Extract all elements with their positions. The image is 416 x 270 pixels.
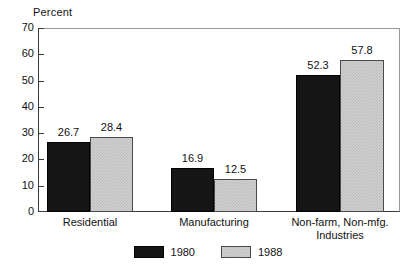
y-axis-tick-label: 70: [4, 22, 34, 33]
y-axis-tick: [38, 81, 44, 82]
y-axis-tick-label: 20: [4, 153, 34, 164]
legend-label-1988: 1988: [258, 247, 282, 258]
bar-1988-1: [214, 179, 257, 212]
y-axis-labels: 010203040506070: [0, 0, 34, 270]
y-axis-tick: [38, 159, 44, 160]
y-axis-tick: [38, 107, 44, 108]
y-axis-tick-label: 30: [4, 127, 34, 138]
x-axis-category-label: Non-farm, Non-mfg.Industries: [270, 216, 410, 242]
legend-label-1980: 1980: [171, 247, 195, 258]
bar-value-label: 28.4: [84, 122, 139, 133]
x-axis-category-label-line: Manufacturing: [179, 216, 249, 228]
x-axis-category-label: Manufacturing: [144, 216, 284, 229]
legend-swatch-1988: [221, 246, 251, 258]
legend-swatch-1980: [134, 246, 164, 258]
y-axis-tick-label: 50: [4, 75, 34, 86]
y-axis-tick: [38, 28, 44, 29]
x-axis-category-label-line: Industries: [270, 229, 410, 242]
bar-1988-2: [340, 60, 384, 212]
x-axis-category-label-line: Residential: [63, 216, 117, 228]
y-axis-tick: [38, 186, 44, 187]
bar-value-label: 52.3: [290, 60, 346, 71]
bar-1980-0: [47, 142, 90, 212]
x-axis-category-label: Residential: [20, 216, 160, 229]
y-axis-tick-label: 10: [4, 180, 34, 191]
bar-1980-2: [296, 75, 340, 212]
chart-legend: 1980 1988: [0, 246, 416, 258]
y-axis-tick: [38, 54, 44, 55]
bar-value-label: 57.8: [334, 45, 390, 56]
bar-chart-figure: Percent 010203040506070 1980 1988 26.728…: [0, 0, 416, 270]
bar-value-label: 16.9: [165, 153, 220, 164]
bar-value-label: 12.5: [208, 164, 263, 175]
y-axis-title: Percent: [33, 6, 72, 18]
legend-item-1988: 1988: [221, 246, 282, 258]
y-axis-tick-label: 60: [4, 48, 34, 59]
legend-item-1980: 1980: [134, 246, 195, 258]
bar-1988-0: [90, 137, 133, 212]
x-axis-category-label-line: Non-farm, Non-mfg.: [291, 216, 388, 228]
y-axis-tick-label: 40: [4, 101, 34, 112]
